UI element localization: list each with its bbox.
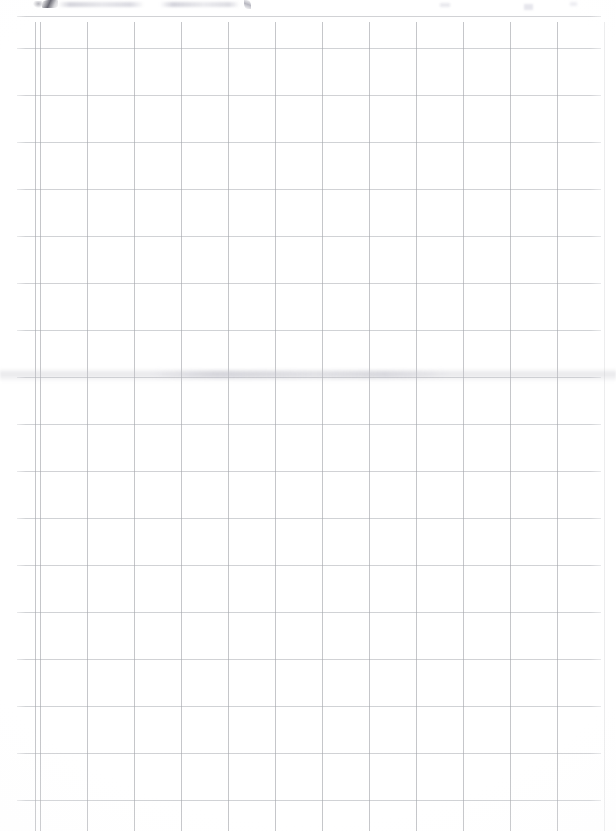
grid-horizontal-lines: [17, 0, 601, 831]
scanned-page: [0, 0, 616, 831]
grid-layer: [0, 0, 616, 831]
